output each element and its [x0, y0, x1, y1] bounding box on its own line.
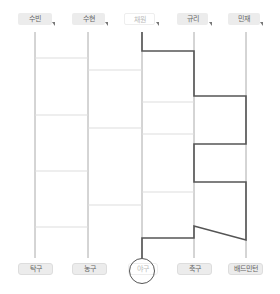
result-label-1: 탁구: [18, 263, 53, 275]
result-label-5: 배드민턴: [228, 263, 263, 275]
ladder-rails: [35, 32, 246, 258]
result-label-4: 축구: [177, 263, 212, 275]
ladder-rungs: [35, 58, 194, 227]
result-label-2: 농구: [72, 263, 107, 275]
ladder-board: [0, 0, 280, 294]
result-highlight-circle: [129, 258, 155, 284]
